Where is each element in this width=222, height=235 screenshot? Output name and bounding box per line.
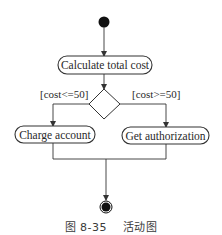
edge-decision-to-charge [53, 104, 89, 126]
decision-node [89, 89, 120, 119]
action-label: Get authorization [125, 130, 205, 142]
action-charge-account: Charge account [15, 126, 95, 143]
action-get-authorization: Get authorization [122, 127, 209, 144]
edge-auth-to-merge [106, 144, 166, 159]
action-label: Calculate total cost [61, 59, 150, 71]
figure-caption: 图 8-35 活动图 [0, 218, 222, 234]
action-calculate-total-cost: Calculate total cost [58, 56, 152, 74]
edge-charge-to-merge [53, 143, 106, 159]
guard-label-right: [cost>=50] [132, 88, 180, 100]
final-node [100, 201, 112, 213]
activity-diagram: Calculate total cost [cost<=50] [cost>=5… [0, 0, 222, 235]
action-label: Charge account [19, 129, 91, 142]
initial-node [99, 17, 110, 28]
guard-label-left: [cost<=50] [40, 88, 88, 100]
edge-decision-to-auth [120, 104, 166, 127]
